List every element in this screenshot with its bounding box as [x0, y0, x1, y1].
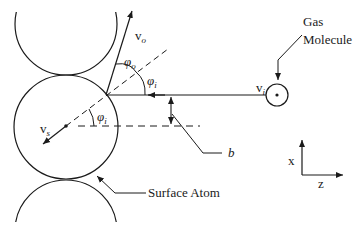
surface-atom-top: [15, 0, 117, 75]
v-o-label: vo: [135, 28, 147, 45]
phi-i-arc-center: [89, 109, 94, 126]
x-axis-label: x: [288, 153, 295, 168]
surface-atom-bottom: [15, 180, 117, 231]
phi-i-arc-top: [136, 72, 145, 95]
gas-molecule-leader: [278, 35, 302, 80]
gas-label: Gas: [303, 14, 323, 29]
impact-parameter-leader: [172, 114, 222, 153]
v-i-label: vi: [256, 80, 266, 97]
z-axis-label: z: [318, 176, 324, 191]
b-label: b: [228, 145, 235, 160]
outgoing-velocity-arrow: [106, 11, 132, 95]
surface-atom-label: Surface Atom: [148, 185, 220, 200]
surface-atom-leader: [97, 176, 146, 193]
scattering-diagram: Gas Molecule vo φo φi φi vi vs b Surface…: [0, 0, 362, 231]
phi-i-top-label: φi: [147, 73, 157, 90]
molecule-label: Molecule: [303, 32, 352, 47]
phi-o-label: φo: [124, 54, 136, 71]
gas-molecule-center: [275, 93, 278, 96]
phi-i-center-label: φi: [97, 109, 107, 126]
v-s-label: vs: [40, 121, 51, 138]
